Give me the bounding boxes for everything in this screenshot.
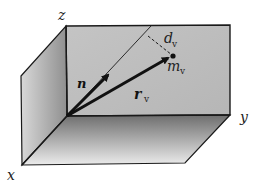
y-axis-label: y (239, 109, 249, 125)
m-v-subscript: v (179, 66, 186, 76)
z-axis-edge (66, 26, 67, 116)
d-v-subscript: v (171, 39, 178, 49)
z-axis-label: z (57, 7, 66, 23)
x-axis-label: x (7, 167, 15, 183)
y-axis-edge (67, 115, 230, 116)
n-vector-label: n (77, 76, 86, 91)
m-v-label: m (167, 58, 180, 74)
r-v-subscript: v (143, 94, 150, 104)
coordinate-diagram: z y x n r v m v d v (0, 0, 261, 186)
